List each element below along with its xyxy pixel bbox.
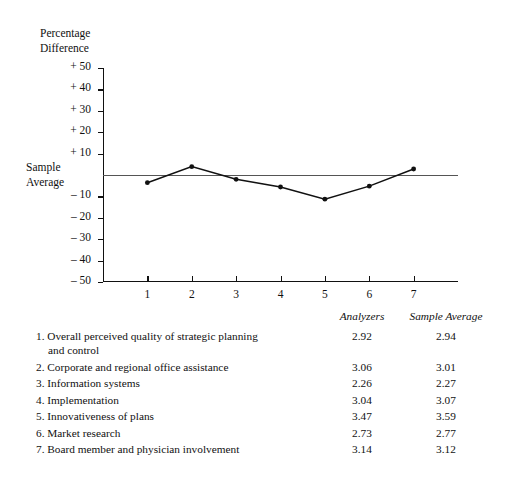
- table-row-label: 4. Implementation: [36, 393, 320, 407]
- table-body: 1. Overall perceived quality of strategi…: [36, 329, 488, 456]
- x-tick-label: 4: [278, 288, 284, 300]
- y-tick: – 50: [98, 282, 103, 283]
- table-row-label-continued: and control: [36, 343, 314, 357]
- y-tick-label: – 10: [71, 188, 91, 200]
- table-cell-sample-average: 3.01: [404, 360, 488, 374]
- data-point-marker: [145, 180, 150, 185]
- y-tick-label: – 50: [71, 274, 91, 286]
- y-axis-title: Percentage Difference: [40, 26, 90, 56]
- table-row: 2. Corporate and regional office assista…: [36, 360, 488, 374]
- x-tick-label: 5: [322, 288, 328, 300]
- table-cell-sample-average: 2.77: [404, 426, 488, 440]
- y-tick-label: + 50: [70, 60, 91, 72]
- y-tick-label: + 10: [70, 146, 91, 158]
- table-cell-analyzers: 3.47: [320, 409, 404, 423]
- data-series: [103, 68, 458, 282]
- table-header-row: Analyzers Sample Average: [36, 310, 488, 322]
- y-tick-label: + 30: [70, 103, 91, 115]
- table-row-label: 5. Innovativeness of plans: [36, 409, 320, 423]
- x-tick-label: 7: [411, 288, 417, 300]
- table-row-label: 3. Information systems: [36, 376, 320, 390]
- table-cell-sample-average: 3.07: [404, 393, 488, 407]
- table-row-label: 1. Overall perceived quality of strategi…: [36, 329, 320, 357]
- data-point-marker: [234, 177, 239, 182]
- table-cell-analyzers: 3.06: [320, 360, 404, 374]
- table-header-sample-average: Sample Average: [404, 310, 488, 322]
- x-tick-label: 3: [233, 288, 239, 300]
- data-point-marker: [189, 164, 194, 169]
- y-tick-label: – 20: [71, 210, 91, 222]
- table-cell-analyzers: 3.04: [320, 393, 404, 407]
- table-row: 4. Implementation3.043.07: [36, 393, 488, 407]
- table-cell-analyzers: 2.73: [320, 426, 404, 440]
- table-row-label: 2. Corporate and regional office assista…: [36, 360, 320, 374]
- data-point-marker: [367, 184, 372, 189]
- x-tick-label: 2: [189, 288, 195, 300]
- table-row: 7. Board member and physician involvemen…: [36, 442, 488, 456]
- table-header-blank: [36, 310, 320, 322]
- table-row: 1. Overall perceived quality of strategi…: [36, 329, 488, 357]
- y-tick-label: – 30: [71, 231, 91, 243]
- table-row-label: 7. Board member and physician involvemen…: [36, 442, 320, 456]
- table-cell-analyzers: 2.92: [320, 329, 404, 343]
- data-table: Analyzers Sample Average 1. Overall perc…: [36, 310, 488, 459]
- table-cell-sample-average: 3.12: [404, 442, 488, 456]
- table-row: 5. Innovativeness of plans3.473.59: [36, 409, 488, 423]
- data-point-marker: [411, 167, 416, 172]
- x-tick-label: 6: [366, 288, 372, 300]
- table-cell-sample-average: 3.59: [404, 409, 488, 423]
- table-cell-analyzers: 3.14: [320, 442, 404, 456]
- sample-average-axis-label: Sample Average: [26, 160, 64, 190]
- series-line: [147, 167, 413, 200]
- data-point-marker: [322, 197, 327, 202]
- y-tick-label: + 40: [70, 81, 91, 93]
- x-tick-label: 1: [145, 288, 151, 300]
- chart-plot-area: + 50+ 40+ 30+ 20+ 10– 10– 20– 30– 40– 50…: [103, 68, 458, 282]
- table-cell-sample-average: 2.27: [404, 376, 488, 390]
- table-cell-sample-average: 2.94: [404, 329, 488, 343]
- y-tick-label: – 40: [71, 253, 91, 265]
- table-row: 6. Market research2.732.77: [36, 426, 488, 440]
- table-cell-analyzers: 2.26: [320, 376, 404, 390]
- table-header-analyzers: Analyzers: [320, 310, 404, 322]
- y-tick-label: + 20: [70, 124, 91, 136]
- table-row-label: 6. Market research: [36, 426, 320, 440]
- data-point-marker: [278, 185, 283, 190]
- table-row: 3. Information systems2.262.27: [36, 376, 488, 390]
